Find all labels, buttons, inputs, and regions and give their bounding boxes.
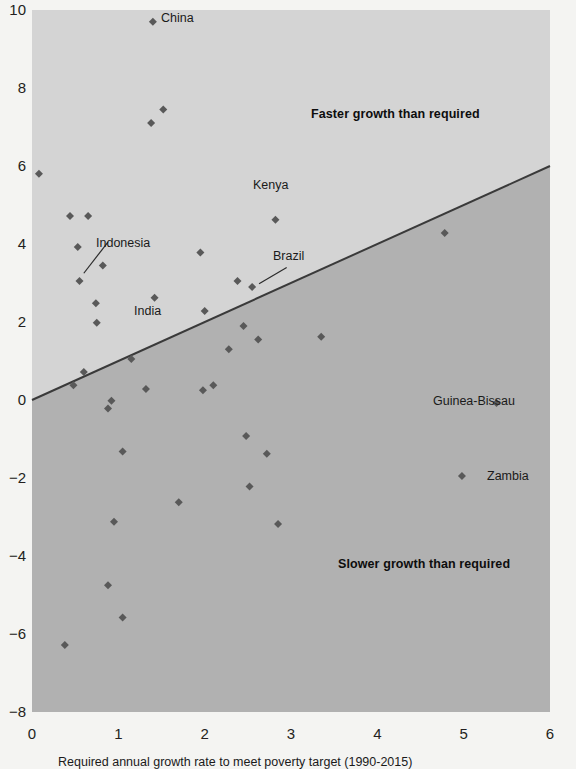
x-axis-title: Required annual growth rate to meet pove… [58, 755, 412, 769]
y-axis-tick-8: −6 [0, 626, 26, 641]
x-axis-tick-4: 4 [365, 726, 389, 741]
x-axis-tick-6: 6 [538, 726, 562, 741]
brazil-label: Brazil [273, 249, 304, 263]
y-axis-tick-4: 2 [0, 314, 26, 329]
guinea-bissau-label: Guinea-Bissau [433, 394, 515, 408]
y-axis-tick-6: −2 [0, 470, 26, 485]
slower-growth-label: Slower growth than required [338, 557, 510, 571]
y-axis-tick-2: 6 [0, 158, 26, 173]
x-axis-tick-3: 3 [279, 726, 303, 741]
india-label: India [134, 304, 161, 318]
x-axis-tick-5: 5 [452, 726, 476, 741]
indonesia-label: Indonesia [96, 236, 150, 250]
china-label: China [161, 11, 194, 25]
y-axis-tick-5: 0 [0, 392, 26, 407]
x-axis-tick-1: 1 [106, 726, 130, 741]
x-axis-tick-2: 2 [193, 726, 217, 741]
y-axis-tick-1: 8 [0, 80, 26, 95]
y-axis-tick-0: 10 [0, 2, 26, 17]
y-axis-tick-7: −4 [0, 548, 26, 563]
y-axis-tick-9: −8 [0, 704, 26, 719]
zambia-label: Zambia [487, 469, 529, 483]
faster-growth-label: Faster growth than required [311, 107, 480, 121]
y-axis-tick-3: 4 [0, 236, 26, 251]
kenya-label: Kenya [253, 178, 288, 192]
x-axis-tick-0: 0 [20, 726, 44, 741]
